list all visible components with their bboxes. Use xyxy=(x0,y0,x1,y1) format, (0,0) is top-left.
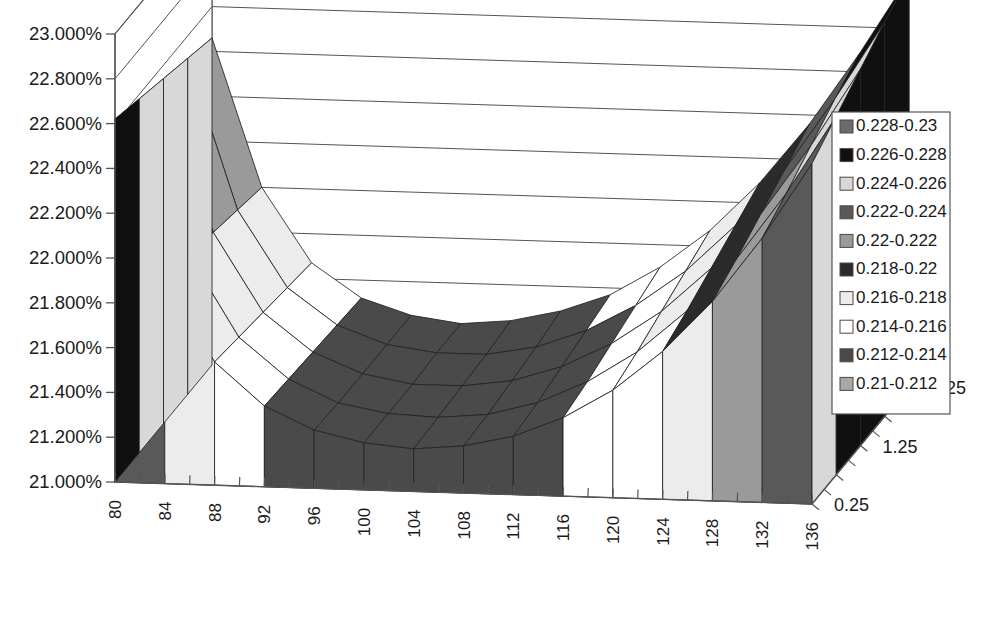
category-axis-label: 80 xyxy=(106,500,125,519)
legend-swatch xyxy=(840,349,853,362)
value-axis-label: 21.400% xyxy=(29,381,102,402)
legend-label: 0.214-0.216 xyxy=(856,317,947,336)
surface-left-skirt xyxy=(115,99,139,482)
legend-swatch xyxy=(840,292,853,305)
legend-item[interactable]: 0.222-0.224 xyxy=(840,202,947,221)
value-axis-label: 23.000% xyxy=(29,23,102,44)
legend-swatch xyxy=(840,120,853,133)
value-axis-label: 22.000% xyxy=(29,247,102,268)
legend[interactable]: 0.228-0.230.226-0.2280.224-0.2260.222-0.… xyxy=(832,112,950,414)
legend-item[interactable]: 0.224-0.226 xyxy=(840,174,947,193)
depth-axis-label: 0.25 xyxy=(834,495,869,515)
category-axis-label: 104 xyxy=(405,509,424,537)
legend-swatch xyxy=(840,206,853,219)
category-axis-label: 128 xyxy=(703,519,722,547)
legend-label: 0.226-0.228 xyxy=(856,145,947,164)
legend-swatch xyxy=(840,263,853,276)
value-axis-label: 22.800% xyxy=(29,68,102,89)
category-axis-label: 84 xyxy=(156,502,175,521)
category-axis-label: 96 xyxy=(305,506,324,525)
depth-axis-label: 1.25 xyxy=(883,437,918,457)
legend-item[interactable]: 0.216-0.218 xyxy=(840,288,947,307)
value-axis-label: 22.400% xyxy=(29,157,102,178)
surface-chart: 21.000%21.200%21.400%21.600%21.800%22.00… xyxy=(0,0,1002,631)
category-axis-label: 92 xyxy=(255,505,274,524)
surface-left-skirt xyxy=(164,58,188,423)
legend-swatch xyxy=(840,320,853,333)
category-axis-label: 120 xyxy=(604,516,623,544)
legend-swatch xyxy=(840,234,853,247)
legend-swatch xyxy=(840,177,853,190)
legend-label: 0.21-0.212 xyxy=(856,374,937,393)
legend-label: 0.222-0.224 xyxy=(856,202,947,221)
value-axis-label: 21.800% xyxy=(29,292,102,313)
chart-canvas: 21.000%21.200%21.400%21.600%21.800%22.00… xyxy=(0,0,1002,631)
legend-label: 0.224-0.226 xyxy=(856,174,947,193)
legend-item[interactable]: 0.212-0.214 xyxy=(840,345,947,364)
legend-label: 0.216-0.218 xyxy=(856,288,947,307)
legend-label: 0.212-0.214 xyxy=(856,345,947,364)
value-axis-label: 22.600% xyxy=(29,113,102,134)
legend-label: 0.228-0.23 xyxy=(856,116,937,135)
value-axis-label: 21.000% xyxy=(29,471,102,492)
value-axis-label: 21.200% xyxy=(29,426,102,447)
category-axis-label: 100 xyxy=(355,508,374,536)
category-axis-label: 108 xyxy=(455,511,474,539)
surface-left-skirt xyxy=(139,79,163,453)
legend-item[interactable]: 0.214-0.216 xyxy=(840,317,947,336)
legend-label: 0.218-0.22 xyxy=(856,259,937,278)
category-axis-label: 132 xyxy=(753,520,772,548)
legend-swatch xyxy=(840,377,853,390)
surface-left-skirt xyxy=(188,38,212,394)
legend-item[interactable]: 0.226-0.228 xyxy=(840,145,947,164)
category-axis-label: 136 xyxy=(803,522,822,550)
category-axis-label: 88 xyxy=(206,503,225,522)
value-axis-label: 22.200% xyxy=(29,202,102,223)
legend-label: 0.22-0.222 xyxy=(856,231,937,250)
category-axis-label: 116 xyxy=(554,514,573,541)
category-axis-label: 112 xyxy=(504,513,523,540)
category-axis-label: 124 xyxy=(654,517,673,545)
legend-swatch xyxy=(840,149,853,162)
value-axis-label: 21.600% xyxy=(29,337,102,358)
